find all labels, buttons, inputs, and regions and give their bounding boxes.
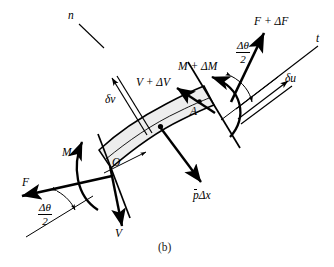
- p-overbar: [194, 189, 198, 190]
- distributed-load-label: pΔx: [193, 190, 211, 202]
- displacement-du-label: δu: [285, 73, 296, 85]
- shear-v-label: V: [115, 228, 122, 240]
- moment-m-plus-dm-label: M + ΔM: [178, 61, 217, 73]
- distributed-load-arrow: [160, 127, 201, 182]
- left-half-angle-reference-line: [26, 196, 93, 237]
- left-half-angle-numerator: Δθ: [38, 202, 52, 214]
- right-half-angle-denominator: 2: [236, 54, 250, 66]
- right-half-angle-numerator: Δθ: [236, 40, 250, 52]
- force-f-arrow: [22, 176, 112, 196]
- point-o-label: O: [112, 157, 120, 169]
- left-half-angle-fraction: Δθ 2: [38, 202, 52, 227]
- force-f-label: F: [22, 177, 29, 189]
- left-half-angle-denominator: 2: [38, 216, 52, 228]
- shear-v-arrow: [110, 166, 122, 226]
- point-a-label: A: [190, 106, 197, 118]
- distributed-load-p-letter: p: [193, 189, 199, 201]
- distributed-load-delta-x: Δx: [199, 189, 211, 201]
- distributed-load-p-symbol: p: [193, 190, 199, 202]
- tangent-axis-label: t: [316, 33, 319, 45]
- moment-m-label: M: [62, 147, 72, 159]
- moment-m-plus-dm-arc: [212, 77, 240, 137]
- left-half-angle-arc: [57, 191, 75, 210]
- shear-v-plus-dv-label: V + ΔV: [136, 77, 170, 89]
- displacement-dv-label: δv: [105, 94, 115, 106]
- normal-axis-label: n: [68, 10, 74, 22]
- figure-caption: (b): [158, 241, 171, 253]
- free-body-diagram-figure: n t F + ΔF M + ΔM V + ΔV δu δv Δθ 2 Δθ 2…: [0, 0, 334, 267]
- normal-axis-line: [79, 24, 104, 48]
- right-half-angle-fraction: Δθ 2: [236, 40, 250, 65]
- right-half-angle-reference-line: [221, 77, 278, 120]
- force-f-plus-df-label: F + ΔF: [254, 16, 288, 28]
